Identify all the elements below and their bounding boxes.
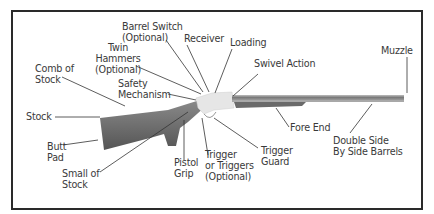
- label-fore-end: Fore End: [290, 122, 330, 133]
- label-trigger-guard: Trigger Guard: [261, 145, 293, 167]
- fore-end-shape: [234, 102, 306, 108]
- label-swivel-action: Swivel Action: [254, 58, 315, 69]
- barrel-shape: [232, 95, 404, 100]
- label-loading: Loading: [230, 37, 266, 48]
- label-butt-pad: Butt Pad: [47, 141, 66, 163]
- barrel-shape-lower: [232, 100, 404, 102]
- label-double-side-barrels: Double Side By Side Barrels: [333, 135, 403, 157]
- label-pistol-grip: Pistol Grip: [174, 157, 198, 179]
- label-barrel-switch: Barrel Switch (Optional): [122, 21, 183, 43]
- label-small-of-stock: Small of Stock: [62, 168, 99, 190]
- label-trigger: Trigger or Triggers (Optional): [205, 149, 254, 182]
- label-receiver: Receiver: [184, 33, 224, 44]
- label-safety-mechanism: Safety Mechanism: [118, 78, 171, 100]
- receiver-shape: [196, 92, 234, 114]
- label-muzzle: Muzzle: [381, 45, 413, 56]
- stock-shape: [100, 100, 206, 150]
- label-comb-of-stock: Comb of Stock: [35, 63, 74, 85]
- label-stock: Stock: [26, 111, 52, 122]
- label-twin-hammers: Twin Hammers (Optional): [95, 42, 141, 75]
